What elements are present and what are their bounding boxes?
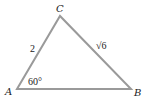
vertex-label-c: C xyxy=(56,3,64,14)
side-label-cb: √6 xyxy=(96,40,107,51)
side-label-ac: 2 xyxy=(30,43,35,54)
triangle-diagram: C A B 2 √6 60° xyxy=(0,0,146,101)
angle-label-a: 60° xyxy=(28,76,42,87)
vertex-label-a: A xyxy=(4,86,12,97)
vertex-label-b: B xyxy=(133,87,141,98)
